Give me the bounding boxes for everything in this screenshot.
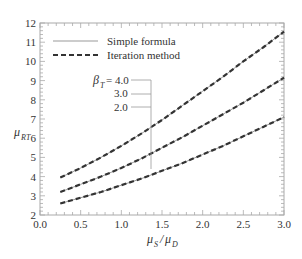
x-tick-label: 2.0 [196, 218, 210, 230]
simple-line [60, 117, 284, 203]
x-axis-title: μ S / μ D [146, 232, 178, 249]
y-tick-label: 4 [31, 171, 37, 183]
y-tick-label: 5 [31, 151, 37, 163]
x-axis-mu-d: μ [164, 232, 171, 246]
x-axis-mu-s: μ [146, 232, 153, 246]
simple-line [60, 78, 284, 192]
x-tick-label: 1.5 [155, 218, 169, 230]
x-axis-sub-s: S [154, 240, 158, 249]
x-tick-label: 0.5 [74, 218, 88, 230]
iteration-line [60, 117, 284, 203]
legend-iteration-label: Iteration method [107, 49, 181, 61]
y-axis-title: μ RT [13, 125, 31, 142]
x-tick-labels: 0.00.51.01.52.02.53.0 [33, 218, 291, 230]
y-tick-label: 9 [31, 75, 37, 87]
y-axis-mu: μ [13, 125, 20, 139]
x-tick-label: 3.0 [277, 218, 291, 230]
legend-simple-label: Simple formula [107, 35, 176, 47]
y-tick-label: 11 [25, 36, 36, 48]
beta-3-label: 3.0 [114, 87, 128, 99]
x-tick-label: 1.0 [114, 218, 128, 230]
y-tick-label: 12 [25, 17, 36, 29]
y-tick-label: 3 [31, 190, 37, 202]
beta-annotation: β T = 4.0 3.0 2.0 [92, 73, 151, 169]
beta-subscript: T [100, 81, 105, 90]
y-tick-label: 6 [31, 132, 37, 144]
legend: Simple formula Iteration method [53, 35, 181, 61]
beta-symbol: β [92, 73, 99, 87]
y-axis-sub: RT [20, 133, 31, 142]
x-tick-label: 2.5 [236, 218, 250, 230]
iteration-line [60, 78, 284, 192]
y-tick-label: 8 [31, 94, 37, 106]
y-tick-labels: 23456789101112 [25, 17, 37, 221]
y-tick-label: 10 [25, 55, 37, 67]
y-tick-label: 7 [31, 113, 37, 125]
beta-2-label: 2.0 [114, 101, 128, 113]
beta-4-label: = 4.0 [106, 74, 129, 86]
x-tick-label: 0.0 [33, 218, 47, 230]
chart: 23456789101112 0.00.51.01.52.02.53.0 Sim… [0, 0, 302, 259]
x-axis-sub-d: D [171, 240, 178, 249]
